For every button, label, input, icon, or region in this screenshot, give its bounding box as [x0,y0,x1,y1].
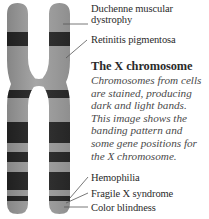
x-chromosome-figure: Duchenne muscular dystrophy Retinitis pi… [0,0,209,219]
caption-line: banding pattern and [91,124,209,137]
gene-label-hemophilia: Hemophilia [91,172,140,183]
caption-line: dark and light bands. [91,99,209,112]
gene-label-retinitis: Retinitis pigmentosa [91,34,176,45]
caption-line: some gene positions for [91,137,209,150]
gene-label-color-blindness: Color blindness [91,202,156,213]
gene-label-duchenne-line2: dystrophy [91,14,173,25]
chromosome-body [0,0,80,219]
caption-line: the X chromosome. [91,150,209,163]
caption-line: are stained, producing [91,87,209,100]
gene-label-fragile-x: Fragile X syndrome [91,188,173,199]
gene-label-duchenne: Duchenne muscular dystrophy [91,3,173,25]
caption-block: The X chromosome Chromosomes from cells … [91,59,209,162]
caption-line: This image shows the [91,112,209,125]
caption-line: Chromosomes from cells [91,74,209,87]
gene-label-duchenne-line1: Duchenne muscular [91,3,173,14]
leader-hemophilia [70,177,88,198]
caption-title: The X chromosome [91,59,209,73]
caption-body: Chromosomes from cells are stained, prod… [91,74,209,162]
